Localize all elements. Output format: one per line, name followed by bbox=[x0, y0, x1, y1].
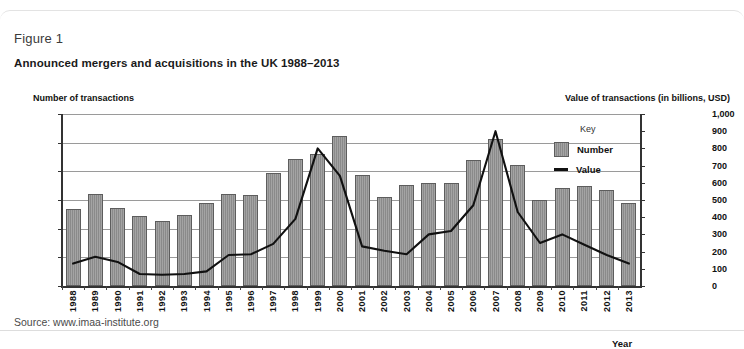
y-axis-right-tick-label: 600 bbox=[712, 178, 744, 188]
y-axis-left-tick-mark bbox=[58, 171, 63, 172]
x-axis-tick-mark bbox=[395, 286, 396, 290]
y-axis-right-tick-label: 700 bbox=[712, 161, 744, 171]
x-axis-tick-mark bbox=[106, 286, 107, 290]
y-axis-right-tick-label: 900 bbox=[712, 126, 744, 136]
y-axis-left-tick-mark bbox=[58, 257, 63, 258]
x-axis-tick-label: 1999 bbox=[313, 290, 323, 312]
x-axis-tick-mark bbox=[307, 286, 308, 290]
x-axis-tick-label: 1996 bbox=[246, 290, 256, 312]
figure-title: Announced mergers and acquisitions in th… bbox=[14, 57, 340, 69]
x-axis-tick-mark bbox=[373, 286, 374, 290]
y-axis-right-tick-mark bbox=[640, 166, 645, 167]
x-axis-tick-mark bbox=[507, 286, 508, 290]
y-axis-right-tick-label: 500 bbox=[712, 195, 744, 205]
y-axis-right-tick-mark bbox=[640, 200, 645, 201]
figure-label: Figure 1 bbox=[14, 31, 63, 46]
x-axis-tick-label: 2013 bbox=[624, 290, 634, 312]
legend-item-value: Value bbox=[554, 164, 601, 175]
x-axis-tick-label: 2003 bbox=[402, 290, 412, 312]
y-axis-right-tick-label: 400 bbox=[712, 212, 744, 222]
x-axis-tick-mark bbox=[618, 286, 619, 290]
x-axis-tick-mark bbox=[218, 286, 219, 290]
y-axis-right-tick-label: 200 bbox=[712, 247, 744, 257]
y-axis-right-tick-label: 300 bbox=[712, 229, 744, 239]
x-axis-tick-mark bbox=[573, 286, 574, 290]
right-axis-title: Value of transactions (in billions, USD) bbox=[565, 93, 730, 103]
x-axis-tick-label: 2012 bbox=[602, 290, 612, 312]
value-polyline bbox=[73, 131, 629, 275]
x-axis-tick-mark bbox=[62, 286, 63, 290]
y-axis-left-tick-mark bbox=[58, 229, 63, 230]
legend-item-number: Number bbox=[554, 142, 613, 157]
y-axis-right-tick-mark bbox=[640, 131, 645, 132]
x-axis-tick-label: 2000 bbox=[335, 290, 345, 312]
x-axis-tick-label: 1994 bbox=[202, 290, 212, 312]
x-axis-tick-mark bbox=[262, 286, 263, 290]
x-axis-tick-mark bbox=[329, 286, 330, 290]
x-axis-tick-label: 1997 bbox=[268, 290, 278, 312]
x-axis-tick-label: 2010 bbox=[557, 290, 567, 312]
x-axis-tick-label: 2011 bbox=[579, 290, 589, 312]
x-axis-tick-mark bbox=[418, 286, 419, 290]
x-axis-tick-label: 2005 bbox=[446, 290, 456, 312]
y-axis-right-tick-mark bbox=[640, 269, 645, 270]
x-axis-tick-mark bbox=[440, 286, 441, 290]
y-axis-right-tick-label: 1,000 bbox=[712, 109, 744, 119]
x-axis-tick-mark bbox=[462, 286, 463, 290]
y-axis-right-tick-label: 100 bbox=[712, 264, 744, 274]
x-axis-tick-label: 2004 bbox=[424, 290, 434, 312]
y-axis-right-tick-label: 0 bbox=[712, 281, 744, 291]
value-line-series bbox=[62, 114, 640, 286]
x-axis-tick-mark bbox=[596, 286, 597, 290]
x-axis-tick-mark bbox=[551, 286, 552, 290]
figure-panel: Figure 1 Announced mergers and acquisiti… bbox=[0, 10, 744, 331]
source-note: Source: www.imaa-institute.org bbox=[14, 316, 159, 328]
legend-title: Key bbox=[580, 124, 596, 134]
x-axis-tick-label: 2001 bbox=[357, 290, 367, 312]
y-axis-right-tick-mark bbox=[640, 114, 645, 115]
x-axis-title: Year bbox=[612, 338, 632, 349]
y-axis-left-tick-mark bbox=[58, 114, 63, 115]
y-axis-left-tick-mark bbox=[58, 200, 63, 201]
x-axis-tick-label: 1991 bbox=[135, 290, 145, 312]
x-axis-tick-mark bbox=[84, 286, 85, 290]
chart-canvas: 01,0002,0003,0004,0005,0006,000 01002003… bbox=[62, 114, 640, 286]
y-axis-right-tick-mark bbox=[640, 183, 645, 184]
x-axis-tick-label: 1995 bbox=[224, 290, 234, 312]
x-axis-tick-label: 1989 bbox=[90, 290, 100, 312]
legend-label-number: Number bbox=[577, 144, 613, 155]
y-axis-right-tick-mark bbox=[640, 252, 645, 253]
x-axis-tick-mark bbox=[484, 286, 485, 290]
x-axis-tick-mark bbox=[129, 286, 130, 290]
x-axis-tick-label: 1998 bbox=[290, 290, 300, 312]
x-axis-tick-mark bbox=[529, 286, 530, 290]
x-axis-tick-label: 2002 bbox=[379, 290, 389, 312]
x-axis-tick-mark bbox=[173, 286, 174, 290]
x-axis-tick-mark bbox=[151, 286, 152, 290]
y-axis-right-tick-mark bbox=[640, 234, 645, 235]
x-axis-tick-mark bbox=[195, 286, 196, 290]
y-axis-right-tick-mark bbox=[640, 148, 645, 149]
y-axis-right-tick-mark bbox=[640, 217, 645, 218]
x-axis-tick-mark bbox=[240, 286, 241, 290]
y-axis-right-tick-label: 800 bbox=[712, 143, 744, 153]
chart-plot-area: 01,0002,0003,0004,0005,0006,000 01002003… bbox=[0, 106, 744, 316]
x-axis-tick-label: 2007 bbox=[491, 290, 501, 312]
legend-line-swatch-icon bbox=[554, 168, 568, 171]
x-axis-tick-label: 1990 bbox=[113, 290, 123, 312]
x-axis-tick-mark bbox=[351, 286, 352, 290]
x-axis-tick-mark bbox=[284, 286, 285, 290]
left-axis-title: Number of transactions bbox=[33, 93, 134, 103]
x-axis-tick-label: 1993 bbox=[179, 290, 189, 312]
x-axis-tick-label: 2009 bbox=[535, 290, 545, 312]
legend-label-value: Value bbox=[576, 164, 601, 175]
x-axis-tick-label: 2008 bbox=[513, 290, 523, 312]
x-axis-tick-label: 1988 bbox=[68, 290, 78, 312]
y-axis-left-tick-mark bbox=[58, 143, 63, 144]
legend-bar-swatch-icon bbox=[554, 142, 569, 157]
y-axis-right-tick-mark bbox=[640, 286, 645, 287]
x-axis-tick-label: 2006 bbox=[468, 290, 478, 312]
x-axis-tick-label: 1992 bbox=[157, 290, 167, 312]
